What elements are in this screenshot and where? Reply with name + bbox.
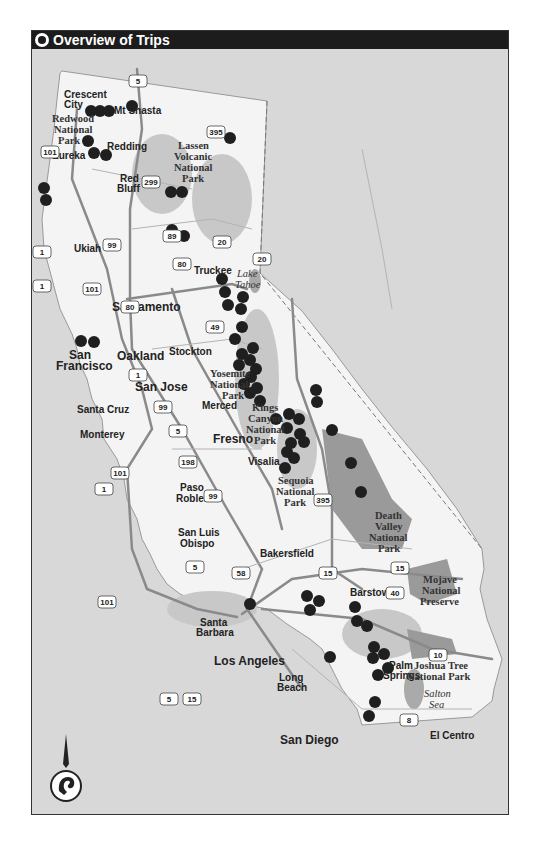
highway-shield: 99 bbox=[204, 490, 222, 502]
map-frame: Overview of Trips bbox=[31, 30, 509, 815]
highway-shield: 395 bbox=[207, 126, 225, 138]
water-label: Tahoe bbox=[235, 279, 261, 290]
park-label: Yosemite bbox=[210, 368, 251, 379]
city-label: San Diego bbox=[280, 733, 339, 747]
park-label: Canyon bbox=[248, 413, 283, 424]
page-title: Overview of Trips bbox=[53, 32, 170, 48]
trip-marker[interactable] bbox=[82, 135, 94, 147]
highway-number: 99 bbox=[159, 403, 168, 412]
trip-marker[interactable] bbox=[301, 590, 313, 602]
water-label: Sea bbox=[429, 699, 444, 710]
city-label: Truckee bbox=[194, 265, 232, 276]
trip-marker[interactable] bbox=[369, 696, 381, 708]
trip-marker[interactable] bbox=[345, 457, 357, 469]
highway-number: 1 bbox=[40, 282, 45, 291]
highway-number: 395 bbox=[209, 128, 223, 137]
trip-marker[interactable] bbox=[176, 186, 188, 198]
highway-shield: 89 bbox=[163, 230, 181, 242]
trip-marker[interactable] bbox=[349, 601, 361, 613]
highway-number: 58 bbox=[237, 569, 246, 578]
park-label: National bbox=[422, 585, 461, 596]
trip-marker[interactable] bbox=[288, 452, 300, 464]
california-map[interactable]: Crescent City Eureka Mt Shasta Redding R… bbox=[32, 49, 508, 814]
park-label: Valley bbox=[375, 521, 403, 532]
highway-number: 5 bbox=[176, 427, 181, 436]
trip-marker[interactable] bbox=[224, 132, 236, 144]
trip-marker[interactable] bbox=[229, 333, 241, 345]
trip-marker[interactable] bbox=[88, 336, 100, 348]
city-label: Ukiah bbox=[74, 243, 101, 254]
highway-number: 8 bbox=[407, 716, 412, 725]
park-label: National bbox=[276, 486, 315, 497]
trip-marker[interactable] bbox=[293, 413, 305, 425]
trip-marker[interactable] bbox=[235, 303, 247, 315]
trip-marker[interactable] bbox=[326, 424, 338, 436]
trip-marker[interactable] bbox=[361, 620, 373, 632]
highway-number: 101 bbox=[43, 148, 57, 157]
highway-number: 10 bbox=[434, 651, 443, 660]
park-label: National bbox=[210, 379, 249, 390]
trip-marker[interactable] bbox=[247, 342, 259, 354]
park-label: National bbox=[246, 424, 285, 435]
highway-shield: 198 bbox=[179, 456, 197, 468]
highway-number: 20 bbox=[258, 255, 267, 264]
trip-marker[interactable] bbox=[237, 291, 249, 303]
trip-marker[interactable] bbox=[311, 396, 323, 408]
highway-shield: 10 bbox=[429, 649, 447, 661]
highway-shield: 101 bbox=[111, 467, 129, 479]
trip-marker[interactable] bbox=[378, 648, 390, 660]
park-label: National bbox=[54, 124, 93, 135]
park-label: Death bbox=[375, 510, 402, 521]
highway-shield: 299 bbox=[142, 176, 160, 188]
highway-number: 395 bbox=[316, 496, 330, 505]
highway-number: 198 bbox=[181, 458, 195, 467]
trip-marker[interactable] bbox=[355, 486, 367, 498]
trip-marker[interactable] bbox=[222, 299, 234, 311]
highway-number: 5 bbox=[193, 563, 198, 572]
highway-shield: 58 bbox=[232, 567, 250, 579]
city-label: Stockton bbox=[169, 346, 212, 357]
park-label: Park bbox=[378, 543, 400, 554]
city-label: Barstow bbox=[350, 587, 390, 598]
trip-marker[interactable] bbox=[313, 595, 325, 607]
ram-logo-icon bbox=[35, 33, 49, 47]
city-label: Bakersfield bbox=[260, 548, 314, 559]
trip-marker[interactable] bbox=[244, 598, 256, 610]
trip-marker[interactable] bbox=[88, 147, 100, 159]
trip-marker[interactable] bbox=[304, 604, 316, 616]
highway-shield: 1 bbox=[95, 483, 113, 495]
north-arrow-icon bbox=[63, 734, 69, 768]
highway-number: 15 bbox=[188, 695, 197, 704]
city-label: Merced bbox=[202, 400, 237, 411]
trip-marker[interactable] bbox=[363, 710, 375, 722]
highway-number: 15 bbox=[396, 564, 405, 573]
highway-number: 80 bbox=[178, 260, 187, 269]
svg-text:City: City bbox=[64, 99, 83, 110]
highway-shield: 395 bbox=[314, 494, 332, 506]
trip-marker[interactable] bbox=[219, 286, 231, 298]
highway-number: 101 bbox=[85, 285, 99, 294]
highway-number: 5 bbox=[136, 77, 141, 86]
trip-marker[interactable] bbox=[236, 321, 248, 333]
city-label: Los Angeles bbox=[214, 654, 285, 668]
trip-marker[interactable] bbox=[75, 335, 87, 347]
park-label: Volcanic bbox=[174, 151, 212, 162]
city-label: Paso bbox=[180, 482, 204, 493]
trip-marker[interactable] bbox=[298, 436, 310, 448]
trip-marker[interactable] bbox=[40, 194, 52, 206]
highway-shield: 1 bbox=[129, 369, 147, 381]
trip-marker[interactable] bbox=[310, 384, 322, 396]
highway-number: 5 bbox=[167, 695, 172, 704]
trip-marker[interactable] bbox=[324, 651, 336, 663]
highway-number: 15 bbox=[324, 569, 333, 578]
trip-marker[interactable] bbox=[279, 462, 291, 474]
trip-marker[interactable] bbox=[38, 182, 50, 194]
water-label: Lake bbox=[236, 268, 258, 279]
highway-number: 20 bbox=[218, 238, 227, 247]
highway-number: 99 bbox=[108, 241, 117, 250]
trip-marker[interactable] bbox=[367, 652, 379, 664]
trip-marker[interactable] bbox=[165, 186, 177, 198]
highway-shield: 40 bbox=[386, 587, 404, 599]
trip-marker[interactable] bbox=[368, 641, 380, 653]
highway-shield: 15 bbox=[391, 562, 409, 574]
